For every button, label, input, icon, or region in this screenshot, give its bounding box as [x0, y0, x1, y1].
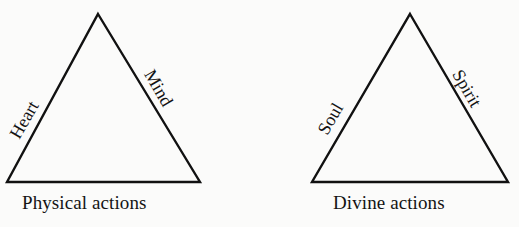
triangle-divine: Soul Spirit Divine actions	[0, 0, 519, 227]
diagram-canvas: Heart Mind Physical actions Soul Spirit …	[0, 0, 519, 227]
triangle-divine-caption: Divine actions	[333, 193, 445, 212]
